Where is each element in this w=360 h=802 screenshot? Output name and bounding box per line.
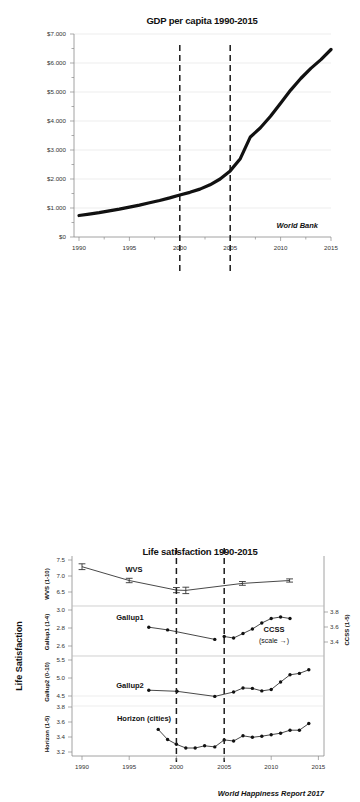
ccss-series-scale-note: (scale →)	[259, 637, 289, 645]
ls-svg-main: 7.5 7.0 6.5 WVS (1-10) WVS	[0, 544, 360, 802]
ls-panel-ccss: 3.8 3.6 3.4 CCSS (1-5) CCSS (scale →)	[223, 608, 351, 645]
gallup2-points	[147, 668, 310, 698]
life-satisfaction-chart: 7.5 7.0 6.5 WVS (1-10) WVS	[0, 272, 360, 560]
gdp-ytick-2000: $2.000	[47, 175, 66, 182]
gdp-x-ticks	[79, 237, 331, 241]
gdp-x-tick-labels: 1990 1995 2000 2005 2010 2015	[72, 244, 338, 251]
horizon-axis-label: Horizon (1-5)	[44, 716, 50, 753]
ccss-axis-label: CCSS (1-5)	[344, 614, 350, 645]
gdp-xtick-2010: 2010	[274, 244, 288, 251]
ls-xtick-2005: 2005	[217, 763, 231, 770]
gdp-ytick-6000: $6.000	[47, 59, 66, 66]
ccss-ytick-3-4: 3.4	[330, 638, 339, 645]
gallup2-series-line	[149, 670, 309, 697]
gdp-y-ticks	[70, 34, 74, 237]
ls-xtick-2010: 2010	[264, 763, 278, 770]
ls-svg	[0, 272, 360, 560]
horizon-ytick-3-4: 3.4	[56, 733, 65, 740]
ls-x-tick-labels: 1990 1995 2000 2005 2010 2015	[75, 763, 326, 770]
ls-title: Life satisfaction 1990-2015	[143, 546, 259, 557]
gdp-title: GDP per capita 1990-2015	[146, 15, 258, 26]
gdp-ytick-4000: $4.000	[47, 117, 66, 124]
wvs-ytick-7-5: 7.5	[56, 556, 65, 563]
gdp-chart: $7.000 $6.000 $5.000 $4.000 $3.000 $2.00…	[0, 0, 360, 272]
wvs-series-label: WVS	[125, 565, 142, 574]
gdp-y-tick-labels: $7.000 $6.000 $5.000 $4.000 $3.000 $2.00…	[47, 30, 66, 240]
horizon-series-label: Horizon (cities)	[117, 714, 172, 723]
gallup1-ytick-3-0: 3.0	[56, 606, 65, 613]
gallup1-ytick-2-8: 2.8	[56, 624, 65, 631]
gdp-ytick-5000: $5.000	[47, 88, 66, 95]
gdp-xtick-1990: 1990	[72, 244, 86, 251]
gallup1-points	[147, 626, 216, 642]
ls-y-axis-title: Life Satisfaction	[14, 621, 24, 691]
ls-panel-gallup2: 5.5 5.0 4.5 Gallup2 (0-10)	[44, 656, 310, 702]
gallup1-series-line	[149, 627, 215, 639]
ls-panel-wvs: 7.5 7.0 6.5 WVS (1-10) WVS	[44, 556, 293, 599]
wvs-ytick-7-0: 7.0	[56, 572, 65, 579]
horizon-ytick-3-8: 3.8	[56, 703, 65, 710]
ls-xtick-1995: 1995	[122, 763, 136, 770]
ls-panel-separators	[72, 606, 324, 706]
gallup2-ytick-4-5: 4.5	[56, 692, 65, 699]
gdp-ytick-1000: $1.000	[47, 204, 66, 211]
gdp-source-note: World Bank	[276, 221, 318, 230]
horizon-ytick-3-2: 3.2	[56, 748, 65, 755]
horizon-series-line	[158, 724, 309, 749]
ccss-ytick-3-6: 3.6	[330, 623, 339, 630]
ls-source-note: World Happiness Report 2017	[218, 789, 325, 798]
ls-panel-horizon: 3.8 3.6 3.4 3.2 Horizon (1-5)	[44, 703, 310, 755]
ls-panel-gallup1: 3.0 2.8 2.6 Gallup1 (1-4) Gallup1	[44, 606, 217, 650]
gdp-gridlines	[74, 34, 331, 208]
gdp-series-line	[79, 50, 331, 216]
gallup2-ytick-5-0: 5.0	[56, 674, 65, 681]
ccss-series-label: CCSS	[264, 625, 285, 634]
gallup2-axis-label: Gallup2 (0-10)	[44, 662, 50, 702]
gdp-ytick-3000: $3.000	[47, 146, 66, 153]
gdp-xtick-2015: 2015	[324, 244, 338, 251]
ls-xtick-2015: 2015	[312, 763, 326, 770]
wvs-ytick-6-5: 6.5	[56, 588, 65, 595]
ccss-ytick-3-8: 3.8	[330, 608, 339, 615]
wvs-error-bars	[79, 564, 293, 594]
gallup1-ytick-2-6: 2.6	[56, 642, 65, 649]
gdp-svg: $7.000 $6.000 $5.000 $4.000 $3.000 $2.00…	[0, 0, 360, 272]
ls-x-ticks	[82, 756, 318, 760]
wvs-axis-label: WVS (1-10)	[44, 568, 50, 599]
gallup1-axis-label: Gallup1 (1-4)	[44, 614, 50, 650]
horizon-ytick-3-6: 3.6	[56, 718, 65, 725]
ls-xtick-1990: 1990	[75, 763, 89, 770]
gallup2-ytick-5-5: 5.5	[56, 656, 65, 663]
ls-xtick-2000: 2000	[170, 763, 184, 770]
gallup2-series-label: Gallup2	[116, 681, 144, 690]
gallup1-series-label: Gallup1	[116, 613, 144, 622]
gdp-ytick-7000: $7.000	[47, 30, 66, 37]
gdp-xtick-1995: 1995	[123, 244, 137, 251]
gdp-ytick-0: $0	[59, 233, 66, 240]
